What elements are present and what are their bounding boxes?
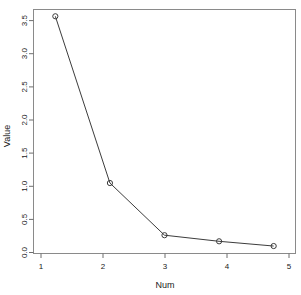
y-tick-label: 3.0: [20, 48, 29, 60]
plot-canvas: 0.0 0.5 1.0 1.5 2.0 2.5 3.0 3.5 1 2 3 4 …: [0, 0, 301, 295]
y-tick-label: 2.0: [20, 114, 29, 126]
scree-plot-figure: 0.0 0.5 1.0 1.5 2.0 2.5 3.0 3.5 1 2 3 4 …: [0, 0, 301, 295]
x-tick-label: 5: [287, 262, 292, 271]
y-tick-label: 2.5: [20, 81, 29, 93]
y-tick-label: 1.0: [20, 180, 29, 192]
y-tick-label: 0.5: [20, 213, 29, 225]
y-tick-label: 3.5: [20, 14, 29, 26]
x-tick-label: 1: [39, 262, 44, 271]
x-tick-label: 3: [163, 262, 168, 271]
figure-background: [0, 0, 301, 295]
x-tick-label: 2: [101, 262, 106, 271]
x-tick-label: 4: [225, 262, 230, 271]
y-tick-label: 1.5: [20, 147, 29, 159]
y-tick-label: 0.0: [20, 246, 29, 258]
x-axis-title: Num: [155, 280, 174, 290]
y-axis-title: Value: [2, 125, 12, 147]
